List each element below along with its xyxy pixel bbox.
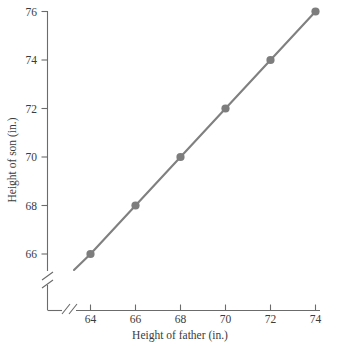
- y-axis-title: Height of son (in.): [6, 117, 19, 202]
- chart-figure: 76 74 72 70 68 66 64 66 68 70 72 74: [0, 0, 337, 346]
- y-axis-ticks: [42, 12, 48, 255]
- x-tick-label: 64: [85, 313, 97, 325]
- x-axis-title: Height of father (in.): [132, 329, 228, 342]
- x-tick-label: 74: [310, 313, 322, 325]
- y-tick-label: 66: [26, 248, 38, 260]
- x-tick-label: 66: [130, 313, 142, 325]
- data-point: [176, 153, 184, 161]
- data-line: [74, 12, 316, 271]
- x-axis-break-icon: [62, 304, 77, 314]
- y-tick-label: 68: [26, 200, 38, 212]
- y-tick-label: 72: [26, 103, 38, 115]
- x-axis-ticks: [91, 305, 316, 311]
- y-tick-label: 74: [26, 54, 38, 66]
- data-point: [311, 7, 319, 15]
- x-tick-label: 68: [175, 313, 187, 325]
- line-chart: 76 74 72 70 68 66 64 66 68 70 72 74: [0, 0, 337, 346]
- x-tick-label: 72: [265, 313, 277, 325]
- data-point: [131, 201, 139, 209]
- data-point: [221, 104, 229, 112]
- x-tick-label: 70: [220, 313, 232, 325]
- y-tick-label: 70: [26, 151, 38, 163]
- data-point: [266, 56, 274, 64]
- data-point: [86, 250, 94, 258]
- y-tick-label: 76: [26, 6, 38, 18]
